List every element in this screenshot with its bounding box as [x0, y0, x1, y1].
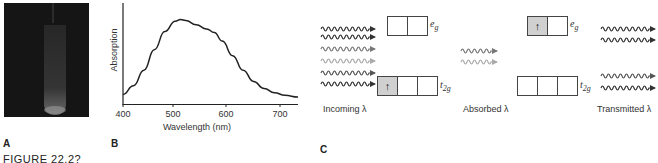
excited-t2g-orbital-3: [558, 77, 577, 95]
incoming-wavy-arrow: [321, 47, 375, 51]
panel-label-b: B: [111, 138, 118, 149]
absorbed-wavy-arrow: [461, 49, 497, 53]
excited-t2g-orbital-2: [538, 77, 558, 95]
light-arrows: [320, 0, 658, 140]
excited-eg-orbital-1-electron: ↑: [528, 17, 548, 35]
x-tick-500: 500: [165, 109, 180, 119]
excited-eg-label: eg: [570, 18, 578, 32]
ground-t2g-orbital-2: [398, 77, 418, 95]
incoming-wavy-arrow: [321, 71, 375, 75]
transmitted-light-label: Transmitted λ: [597, 104, 651, 114]
ground-t2g-orbital-3: [418, 77, 437, 95]
transmitted-wavy-arrow: [601, 86, 655, 90]
transmitted-wavy-arrow: [601, 38, 655, 42]
incoming-light-label: Incoming λ: [323, 104, 367, 114]
ground-t2g-orbitals: ↑: [377, 76, 438, 96]
ground-eg-orbital-2: [408, 17, 427, 35]
excited-t2g-orbitals: [517, 76, 578, 96]
incoming-wavy-arrow: [321, 59, 375, 63]
absorbed-light-arrows: [461, 49, 497, 64]
incoming-wavy-arrow: [321, 35, 375, 39]
incoming-wavy-arrow: [321, 27, 375, 31]
ground-eg-orbitals: [387, 16, 428, 36]
excited-t2g-orbital-1: [518, 77, 538, 95]
x-tick-400: 400: [115, 109, 130, 119]
excited-eg-orbitals: ↑: [527, 16, 568, 36]
incoming-light-arrows: [321, 27, 375, 86]
ground-eg-label: eg: [430, 18, 438, 32]
absorbed-wavy-arrow: [461, 60, 497, 64]
absorption-curve: [123, 20, 298, 97]
absorbed-light-label: Absorbed λ: [463, 104, 509, 114]
incoming-wavy-arrow: [321, 82, 375, 86]
excited-eg-orbital-2: [548, 17, 567, 35]
y-axis-label: Absorption: [109, 28, 119, 71]
figure-caption: FIGURE 22.2?: [3, 153, 81, 163]
ground-t2g-orbital-1-electron: ↑: [378, 77, 398, 95]
panel-label-c: C: [320, 144, 327, 155]
transmitted-wavy-arrow: [601, 27, 655, 31]
absorption-chart: 400 500 600 700 Wavelength (nm) Absorpti…: [100, 0, 325, 135]
excited-t2g-label: t2g: [580, 79, 591, 93]
transmitted-wavy-arrow: [601, 74, 655, 78]
transmitted-light-arrows: [601, 27, 655, 90]
ground-eg-orbital-1: [388, 17, 408, 35]
x-tick-700: 700: [272, 109, 287, 119]
test-tube-photo: [4, 3, 89, 117]
x-axis-label: Wavelength (nm): [163, 122, 231, 132]
test-tube-illustration: [4, 3, 89, 117]
x-tick-600: 600: [218, 109, 233, 119]
ground-t2g-label: t2g: [440, 79, 451, 93]
panel-label-a: A: [3, 138, 10, 149]
